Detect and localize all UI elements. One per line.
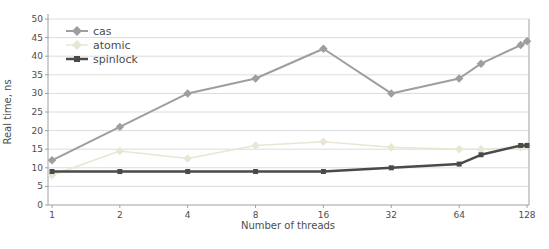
x-tick-label: 8 xyxy=(253,210,259,220)
square-marker xyxy=(525,143,530,148)
square-marker xyxy=(457,162,462,167)
square-marker xyxy=(185,169,190,174)
y-tick-label: 45 xyxy=(32,33,43,43)
y-tick-label: 35 xyxy=(32,70,43,80)
x-tick-label: 128 xyxy=(518,210,535,220)
diamond-marker xyxy=(116,147,124,155)
diamond-marker xyxy=(183,89,191,97)
diamond-marker xyxy=(72,40,82,50)
x-tick-label: 4 xyxy=(185,210,191,220)
square-marker xyxy=(50,169,55,174)
y-tick-label: 5 xyxy=(37,181,43,191)
x-tick-label: 1 xyxy=(49,210,55,220)
square-marker xyxy=(389,165,394,170)
square-marker xyxy=(74,56,80,62)
x-tick-label: 16 xyxy=(318,210,330,220)
legend-label-cas: cas xyxy=(93,25,112,38)
y-tick-label: 50 xyxy=(32,14,44,24)
x-tick-label: 2 xyxy=(117,210,123,220)
diamond-marker xyxy=(116,123,124,131)
diamond-marker xyxy=(72,26,82,36)
y-tick-label: 15 xyxy=(32,144,43,154)
y-tick-label: 0 xyxy=(37,200,43,210)
legend-label-atomic: atomic xyxy=(93,39,131,52)
y-axis-title: Real time, ns xyxy=(2,79,13,144)
square-marker xyxy=(518,143,523,148)
diamond-marker xyxy=(319,138,327,146)
diamond-marker xyxy=(455,145,463,153)
legend-label-spinlock: spinlock xyxy=(93,53,139,66)
y-tick-label: 20 xyxy=(32,126,44,136)
y-tick-label: 25 xyxy=(32,107,43,117)
square-marker xyxy=(478,152,483,157)
diamond-marker xyxy=(183,154,191,162)
diamond-marker xyxy=(251,74,259,82)
square-marker xyxy=(321,169,326,174)
plot-area: 051015202530354045501248163264128casatom… xyxy=(32,14,536,220)
chart-svg: Real time, ns Number of threads 05101520… xyxy=(0,0,549,249)
diamond-marker xyxy=(48,156,56,164)
x-axis-title: Number of threads xyxy=(241,220,335,231)
y-tick-label: 30 xyxy=(32,88,44,98)
x-tick-label: 32 xyxy=(386,210,397,220)
series-line-atomic xyxy=(52,142,527,175)
benchmark-line-chart: Real time, ns Number of threads 05101520… xyxy=(0,0,549,249)
x-tick-label: 64 xyxy=(453,210,465,220)
diamond-marker xyxy=(251,141,259,149)
diamond-marker xyxy=(387,143,395,151)
y-tick-label: 40 xyxy=(32,51,44,61)
square-marker xyxy=(117,169,122,174)
y-tick-label: 10 xyxy=(32,163,44,173)
diamond-marker xyxy=(477,145,485,153)
square-marker xyxy=(253,169,258,174)
